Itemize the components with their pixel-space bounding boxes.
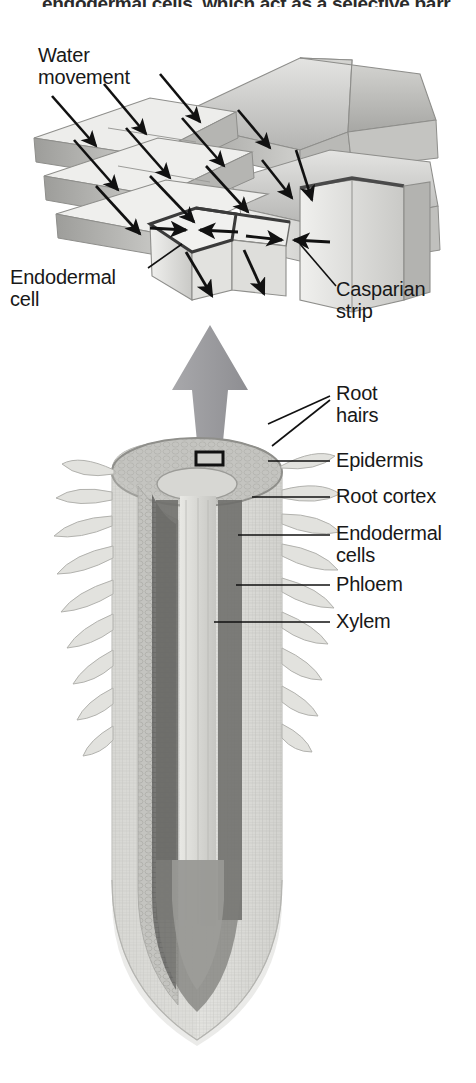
endodermal-cell-row (150, 208, 290, 300)
leader-root-hairs-1 (268, 396, 330, 424)
label-endodermal-cells: Endodermal cells (336, 522, 442, 566)
label-root-hairs: Root hairs (336, 382, 378, 426)
label-casparian-strip: Casparian strip (336, 278, 425, 322)
label-water-movement: Water movement (38, 44, 130, 88)
root-water-transport-figure: endodermal cells, which act as a selecti… (0, 0, 476, 1083)
label-endodermal-cell: Endodermal cell (10, 266, 116, 310)
label-phloem: Phloem (336, 573, 403, 595)
label-xylem: Xylem (336, 610, 391, 632)
magnified-region-box (196, 452, 223, 465)
label-root-cortex: Root cortex (336, 485, 436, 507)
magnification-arrow (172, 325, 248, 452)
label-epidermis: Epidermis (336, 449, 423, 471)
root-section (54, 396, 340, 1046)
leader-root-hairs-2 (272, 400, 330, 446)
